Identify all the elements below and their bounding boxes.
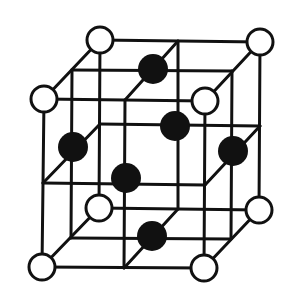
face-atom-top-face bbox=[138, 54, 168, 84]
face-atom-bottom-face bbox=[137, 221, 167, 251]
face-atom-front-face bbox=[111, 163, 141, 193]
corner-atom-front-bottom-left bbox=[29, 254, 55, 280]
face-atom-back-face bbox=[160, 111, 190, 141]
fcc-lattice-diagram bbox=[0, 0, 290, 297]
corner-atom-front-top-right bbox=[192, 88, 218, 114]
corner-atom-back-bottom-left bbox=[86, 195, 112, 221]
corner-atom-back-bottom-right bbox=[246, 197, 272, 223]
face-atom-left-face bbox=[58, 132, 88, 162]
corner-atom-back-top-left bbox=[87, 27, 113, 53]
corner-atom-front-top-left bbox=[31, 86, 57, 112]
lattice-svg bbox=[0, 0, 290, 297]
corner-atom-back-top-right bbox=[247, 29, 273, 55]
corner-atom-front-bottom-right bbox=[191, 255, 217, 281]
face-atom-right-face bbox=[218, 136, 248, 166]
